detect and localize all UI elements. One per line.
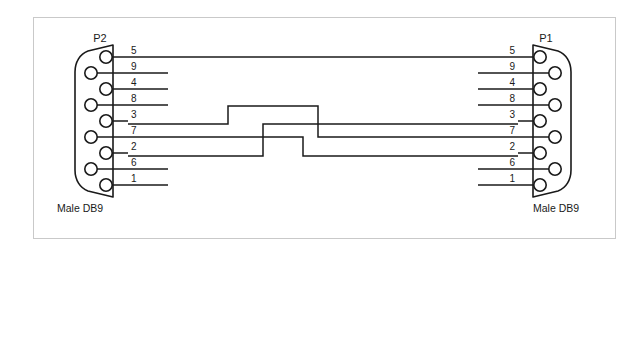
p2-pin-6 bbox=[85, 163, 97, 175]
p2-pin-4 bbox=[100, 83, 112, 95]
p2-label-row-1: 9 bbox=[131, 61, 137, 72]
p2-pin-5 bbox=[100, 51, 112, 63]
p2-pin-2 bbox=[100, 147, 112, 159]
p1-label-row-6: 2 bbox=[509, 141, 515, 152]
p2-label-row-7: 6 bbox=[131, 157, 137, 168]
p1-label-row-2: 4 bbox=[509, 77, 515, 88]
p1-label-row-3: 8 bbox=[509, 93, 515, 104]
wire-pin2-to-pin3 bbox=[128, 124, 518, 156]
db9-wiring-svg: P2 Male DB9 P1 Male DB9 bbox=[0, 0, 633, 341]
p1-pin-4 bbox=[534, 83, 546, 95]
p2-pin-3 bbox=[100, 115, 112, 127]
p2-pin-7 bbox=[85, 131, 97, 143]
p1-label-row-5: 7 bbox=[509, 125, 515, 136]
p1-pin-1 bbox=[534, 179, 546, 191]
p2-caption: Male DB9 bbox=[57, 202, 103, 214]
p1-pin-6 bbox=[549, 163, 561, 175]
p1-label-row-0: 5 bbox=[509, 45, 515, 56]
p2-label-row-8: 1 bbox=[131, 173, 137, 184]
p1-label-row-7: 6 bbox=[509, 157, 515, 168]
p1-pin-2 bbox=[534, 147, 546, 159]
connector-p2: P2 Male DB9 bbox=[57, 32, 128, 214]
p2-pin-8 bbox=[85, 99, 97, 111]
p2-label-row-0: 5 bbox=[131, 45, 137, 56]
p2-pin-number-labels: 5 9 4 8 3 7 2 6 1 bbox=[131, 45, 137, 184]
p1-pin-9 bbox=[549, 67, 561, 79]
p1-title: P1 bbox=[539, 32, 552, 44]
p2-pin-9 bbox=[85, 67, 97, 79]
diagram-canvas: P2 Male DB9 P1 Male DB9 bbox=[0, 0, 633, 341]
p2-label-row-5: 7 bbox=[131, 125, 137, 136]
p1-pin-3 bbox=[534, 115, 546, 127]
p1-caption: Male DB9 bbox=[533, 202, 579, 214]
p1-label-row-4: 3 bbox=[509, 109, 515, 120]
p2-label-row-3: 8 bbox=[131, 93, 137, 104]
p1-pin-8 bbox=[549, 99, 561, 111]
connector-p1: P1 Male DB9 bbox=[518, 32, 579, 214]
p1-pin-7 bbox=[549, 131, 561, 143]
p2-title: P2 bbox=[93, 32, 106, 44]
wire-pin3-to-pin7 bbox=[128, 106, 518, 137]
p1-pin-number-labels: 5 9 4 8 3 7 2 6 1 bbox=[509, 45, 515, 184]
p1-label-row-8: 1 bbox=[509, 173, 515, 184]
p2-label-row-2: 4 bbox=[131, 77, 137, 88]
p2-label-row-6: 2 bbox=[131, 141, 137, 152]
p1-label-row-1: 9 bbox=[509, 61, 515, 72]
p1-pin-5 bbox=[534, 51, 546, 63]
wire-pin7-to-pin2 bbox=[128, 137, 518, 156]
p2-pin-1 bbox=[100, 179, 112, 191]
p2-label-row-4: 3 bbox=[131, 109, 137, 120]
